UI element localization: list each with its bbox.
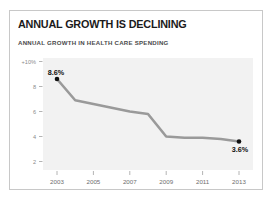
chart-plot-area: +10%8642 200320052007200920112013 8.6%3.… — [10, 11, 264, 191]
x-axis-tick-label: 2007 — [123, 178, 137, 185]
data-point-label: 3.6% — [232, 145, 249, 154]
x-axis-ticks — [57, 171, 239, 175]
y-axis-tick-label: 8 — [33, 84, 36, 90]
y-axis-ticks — [39, 62, 43, 162]
y-axis-tick-label: 4 — [33, 134, 36, 140]
line-chart-svg: +10%8642 200320052007200920112013 8.6%3.… — [10, 11, 264, 191]
x-axis-tick-label: 2005 — [87, 178, 101, 185]
chart-card: ANNUAL GROWTH IS DECLINING ANNUAL GROWTH… — [9, 10, 263, 190]
y-axis-labels: +10%8642 — [22, 59, 36, 165]
data-point-label: 8.6% — [48, 68, 65, 77]
y-axis-tick-label: 2 — [33, 159, 36, 165]
y-axis-tick-label: 6 — [33, 109, 36, 115]
x-axis-tick-label: 2009 — [159, 178, 173, 185]
data-point-marker — [237, 139, 242, 144]
x-axis-tick-label: 2013 — [232, 178, 246, 185]
y-axis-tick-label: +10% — [22, 59, 36, 65]
x-axis-labels: 200320052007200920112013 — [50, 178, 246, 185]
x-axis-tick-label: 2003 — [50, 178, 64, 185]
x-axis-tick-label: 2011 — [196, 178, 210, 185]
data-point-marker — [55, 77, 60, 82]
